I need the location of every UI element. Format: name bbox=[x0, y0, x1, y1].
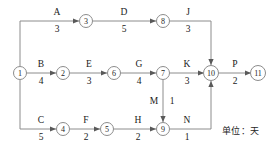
edge-N-9-to-10 bbox=[170, 81, 211, 129]
node-7-label: 7 bbox=[161, 69, 165, 78]
node-3-label: 3 bbox=[84, 17, 88, 26]
activity-A-duration: 3 bbox=[55, 24, 60, 34]
network-diagram: 1 2 3 4 5 6 7 bbox=[0, 0, 279, 149]
activity-D-name: D bbox=[121, 7, 128, 17]
activity-K-duration: 3 bbox=[185, 76, 190, 86]
node-9-label: 9 bbox=[161, 125, 165, 134]
activity-C-duration: 5 bbox=[39, 132, 44, 142]
node-5-label: 5 bbox=[105, 125, 109, 134]
edge-J-8-to-10 bbox=[170, 21, 211, 65]
activity-J-name: J bbox=[186, 7, 190, 17]
activity-label-M: M 1 bbox=[150, 96, 175, 106]
activity-N-name: N bbox=[184, 115, 191, 125]
activity-A-name: A bbox=[54, 7, 61, 17]
activity-H-duration: 2 bbox=[136, 132, 141, 142]
unit-note: 单位：天 bbox=[222, 124, 259, 137]
activity-B-duration: 4 bbox=[39, 76, 44, 86]
node-4-label: 4 bbox=[61, 125, 65, 134]
activity-G-name: G bbox=[136, 59, 143, 69]
activity-P-duration: 2 bbox=[233, 76, 238, 86]
node-7[interactable]: 7 bbox=[157, 67, 170, 80]
activity-E-name: E bbox=[86, 59, 92, 69]
node-11-label: 11 bbox=[254, 69, 262, 78]
activity-P-name: P bbox=[232, 59, 237, 69]
node-8-label: 8 bbox=[161, 17, 165, 26]
node-1-label: 1 bbox=[18, 69, 22, 78]
activity-F-name: F bbox=[83, 115, 88, 125]
activity-F-duration: 2 bbox=[84, 132, 89, 142]
node-4[interactable]: 4 bbox=[57, 123, 70, 136]
node-2-label: 2 bbox=[61, 69, 65, 78]
activity-M-duration: 1 bbox=[170, 96, 175, 106]
activity-B-name: B bbox=[38, 59, 44, 69]
node-6[interactable]: 6 bbox=[108, 67, 121, 80]
node-2[interactable]: 2 bbox=[57, 67, 70, 80]
activity-J-duration: 3 bbox=[186, 24, 191, 34]
edge-A-1-to-3 bbox=[20, 21, 79, 66]
node-11[interactable]: 11 bbox=[251, 66, 266, 81]
activity-M-name: M bbox=[150, 96, 159, 106]
node-1[interactable]: 1 bbox=[14, 67, 27, 80]
node-6-label: 6 bbox=[112, 69, 116, 78]
node-8[interactable]: 8 bbox=[157, 15, 170, 28]
activity-D-duration: 5 bbox=[122, 24, 127, 34]
activity-E-duration: 3 bbox=[87, 76, 92, 86]
node-10-label: 10 bbox=[207, 69, 215, 78]
activity-N-duration: 1 bbox=[185, 132, 190, 142]
node-9[interactable]: 9 bbox=[157, 123, 170, 136]
activity-G-duration: 4 bbox=[137, 76, 142, 86]
node-10[interactable]: 10 bbox=[204, 66, 219, 81]
activity-C-name: C bbox=[38, 115, 44, 125]
node-5[interactable]: 5 bbox=[101, 123, 114, 136]
activity-H-name: H bbox=[135, 115, 142, 125]
node-3[interactable]: 3 bbox=[80, 15, 93, 28]
activity-K-name: K bbox=[184, 59, 191, 69]
